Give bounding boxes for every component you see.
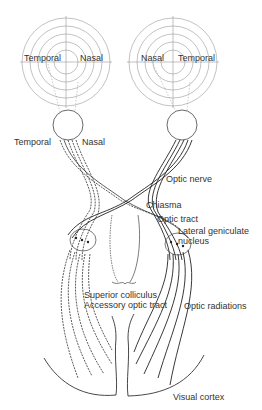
eye-temporal-label: Temporal — [14, 137, 51, 147]
right-field-temporal-label: Temporal — [178, 53, 215, 63]
right-field-nasal-label: Nasal — [141, 53, 164, 63]
left-field-nasal-label: Nasal — [80, 53, 103, 63]
right-eye — [167, 110, 197, 140]
superior-colliculus-tract — [110, 215, 140, 284]
lgn-label-line1: Lateral geniculate — [178, 226, 249, 236]
lgn-label-line2: nucleus — [178, 236, 209, 246]
visual-cortex-outline — [44, 314, 204, 396]
chiasma-label: Chiasma — [146, 200, 182, 210]
superior-colliculus-label: Superior colliculus — [84, 290, 157, 300]
accessory-optic-tract-label: Accessory optic tract — [84, 300, 167, 310]
optic-nerve-label: Optic nerve — [166, 174, 212, 184]
optic-radiations-label: Optic radiations — [184, 301, 247, 311]
left-eye — [53, 110, 83, 140]
left-optic-radiations — [61, 250, 112, 378]
visual-cortex-label: Visual cortex — [173, 392, 224, 402]
eye-nasal-label: Nasal — [82, 137, 105, 147]
left-field-temporal-label: Temporal — [24, 53, 61, 63]
right-optic-radiations — [134, 250, 192, 385]
optic-tract-label: Optic tract — [157, 214, 198, 224]
